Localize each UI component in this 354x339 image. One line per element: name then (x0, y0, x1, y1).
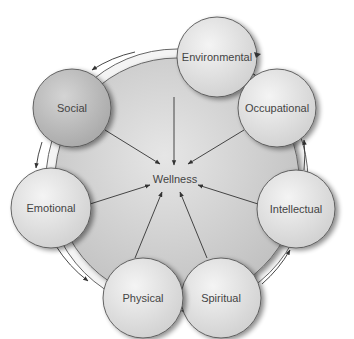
label-physical: Physical (123, 292, 164, 304)
wellness-diagram: Environmental Occupational Intellectual … (0, 0, 354, 339)
label-occupational: Occupational (245, 102, 309, 114)
label-intellectual: Intellectual (270, 203, 323, 215)
label-emotional: Emotional (27, 202, 76, 214)
label-environmental: Environmental (182, 51, 252, 63)
label-spiritual: Spiritual (201, 292, 241, 304)
label-social: Social (57, 102, 87, 114)
label-wellness: Wellness (153, 173, 198, 185)
